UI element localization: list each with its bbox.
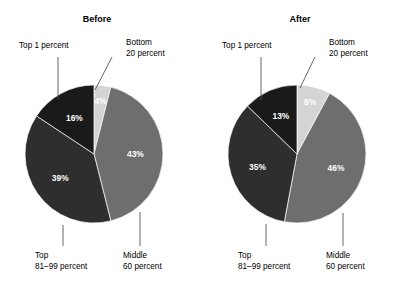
panel-title-after: After: [289, 14, 310, 24]
callout-middle60-after-line1: Middle: [326, 251, 351, 260]
callout-bottom20-after-line2: 20 percent: [329, 49, 368, 58]
callout-top8199-after-line2: 81–99 percent: [238, 262, 291, 271]
slice-value-before-2: 39%: [52, 173, 69, 183]
callout-bottom20-before-line1: Bottom: [126, 38, 152, 47]
slice-value-after-3: 13%: [273, 111, 290, 121]
callout-middle60-before-line1: Middle: [123, 251, 148, 260]
pie-after: 8%46%35%13%: [228, 85, 366, 223]
callout-bottom20-before-line2: 20 percent: [126, 49, 165, 58]
slice-value-before-0: 4%: [95, 96, 108, 106]
callout-middle60-before-line2: 60 percent: [123, 262, 162, 271]
slice-value-before-3: 16%: [66, 113, 83, 123]
callout-top8199-before-line1: Top: [35, 251, 49, 260]
pie-before: 4%43%39%16%: [25, 85, 163, 223]
slice-value-after-1: 46%: [328, 163, 345, 173]
callout-bottom20-after-line1: Bottom: [329, 38, 355, 47]
pie-chart-figure: Before 4%43%39%16% Top 1 percent Bottom …: [0, 0, 401, 285]
panel-title-before: Before: [83, 14, 112, 24]
callout-top1-before: Top 1 percent: [19, 41, 69, 50]
callout-top1-after: Top 1 percent: [222, 41, 272, 50]
slice-value-after-0: 8%: [304, 97, 317, 107]
slice-value-before-1: 43%: [127, 149, 144, 159]
slice-value-after-2: 35%: [249, 162, 266, 172]
callout-top8199-before-line2: 81–99 percent: [35, 262, 88, 271]
callout-middle60-after-line2: 60 percent: [326, 262, 365, 271]
callout-top8199-after-line1: Top: [238, 251, 252, 260]
